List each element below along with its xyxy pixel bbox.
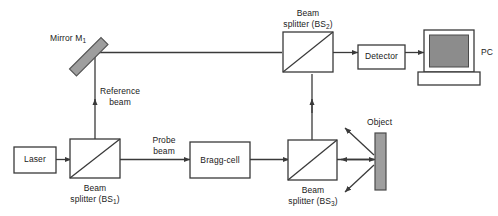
bragg-cell-label: Bragg-cell [190, 155, 250, 165]
bs3-label-close: ) [335, 196, 338, 206]
beam-splitter-2-label: Beam splitter (BS2) [268, 8, 348, 32]
beam-object-scatter-upper [345, 128, 374, 155]
bs2-label-close: ) [330, 19, 333, 29]
reference-beam-line1: Reference [100, 86, 140, 96]
bs2-label-line1: Beam [297, 8, 320, 18]
probe-beam-label: Probe beam [143, 135, 185, 156]
bs3-label-line2: splitter (BS [288, 196, 331, 206]
object-label: Object [367, 117, 392, 128]
beam-splitter-2 [283, 32, 333, 72]
pc-monitor [418, 30, 480, 85]
beam-splitter-3 [288, 140, 337, 180]
beam-splitter-1-label: Beam splitter (BS1) [55, 183, 135, 207]
pc-label: PC [481, 47, 493, 58]
bs3-label-line1: Beam [302, 185, 325, 195]
reference-beam-line2: beam [109, 97, 131, 107]
figure-canvas: Laser Bragg-cell Detector PC Mirror M1 O… [0, 0, 498, 216]
detector-label: Detector [358, 51, 405, 61]
bs1-label-close: ) [117, 194, 120, 204]
probe-beam-line1: Probe [152, 135, 175, 145]
probe-beam-line2: beam [153, 146, 175, 156]
mirror-label: Mirror M1 [50, 33, 86, 47]
mirror-label-text: Mirror M [50, 33, 82, 43]
beam-splitter-1 [70, 139, 120, 178]
beam-splitter-3-label: Beam splitter (BS3) [273, 185, 353, 209]
reference-beam-label: Reference beam [100, 86, 140, 107]
mirror-label-subscript: 1 [82, 37, 86, 44]
bs1-label-line2: splitter (BS [70, 194, 113, 204]
bs1-label-line1: Beam [84, 183, 107, 193]
laser-label: Laser [14, 154, 56, 164]
object-bar [375, 133, 386, 190]
bs2-label-line2: splitter (BS [283, 19, 326, 29]
